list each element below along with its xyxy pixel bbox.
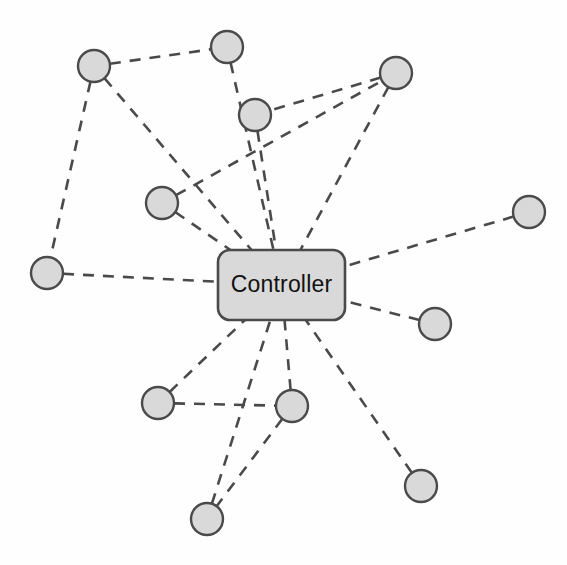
- edge-bottomleft-controller: [170, 320, 245, 392]
- edge-farleft-controller: [63, 274, 218, 282]
- node-top-right[interactable]: [380, 57, 412, 89]
- node-right-lower[interactable]: [419, 308, 451, 340]
- edge-midleft-controller: [175, 212, 230, 250]
- edge-topright-controller: [300, 87, 388, 250]
- edge-rightlower-controller: [345, 301, 419, 320]
- edge-bottomcenter-bottom: [217, 419, 283, 506]
- node-bottom[interactable]: [191, 503, 223, 535]
- edge-topleft-farleft: [51, 82, 91, 258]
- hub-layer: Controller: [218, 250, 345, 320]
- controller-label: Controller: [231, 271, 333, 297]
- node-bottom-left[interactable]: [142, 387, 174, 419]
- node-bottom-right[interactable]: [405, 470, 437, 502]
- edge-bottomright-controller: [306, 320, 412, 473]
- node-top-left[interactable]: [78, 50, 110, 82]
- edge-midleft-topright: [176, 81, 382, 195]
- edge-bottom-controller: [212, 320, 271, 504]
- network-canvas: Controller: [0, 0, 567, 565]
- edge-topleft-topcenter: [110, 49, 211, 63]
- edge-topcenter-controller: [231, 63, 274, 250]
- node-far-right[interactable]: [513, 196, 545, 228]
- edge-topright-uppercenter: [270, 78, 380, 111]
- node-mid-left[interactable]: [146, 187, 178, 219]
- edge-uppercenter-controller: [257, 131, 276, 250]
- node-bottom-center[interactable]: [276, 390, 308, 422]
- edge-bottomleft-bottomcenter: [174, 403, 276, 405]
- edge-bottomcenter-controller: [285, 320, 291, 390]
- node-top-center[interactable]: [211, 31, 243, 63]
- node-upper-center[interactable]: [239, 99, 271, 131]
- network-diagram: Controller: [0, 0, 567, 565]
- node-far-left[interactable]: [31, 257, 63, 289]
- edge-farright-controller: [345, 217, 514, 267]
